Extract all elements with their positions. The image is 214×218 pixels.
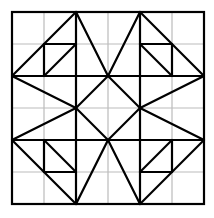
pattern-line: [44, 44, 76, 76]
pattern-line: [140, 44, 172, 76]
pattern-line: [140, 140, 172, 172]
pattern-line: [76, 108, 108, 140]
pattern-line: [44, 140, 76, 172]
pattern-line: [108, 108, 140, 140]
grid-lines: [12, 12, 204, 204]
quilt-diagram: [0, 0, 214, 218]
pattern-line: [76, 76, 108, 108]
pattern-line: [108, 76, 140, 108]
